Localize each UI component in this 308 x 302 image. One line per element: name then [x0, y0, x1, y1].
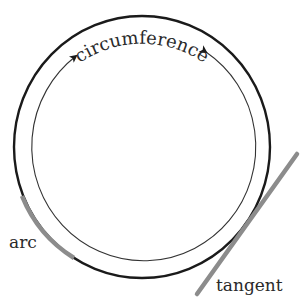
tangent-label: tangent [216, 275, 283, 295]
circle-diagram: circumference arc tangent [0, 0, 308, 302]
tangent-line [197, 154, 297, 294]
circumference-arrow-arc [32, 52, 256, 261]
circumference-label: circumference [71, 27, 214, 67]
arc-label: arc [9, 232, 37, 252]
